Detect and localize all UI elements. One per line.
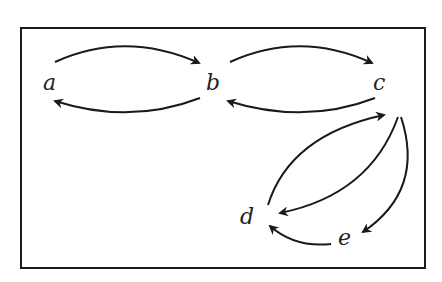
- graph-diagram: a b c d e: [0, 0, 442, 282]
- node-d: d: [240, 204, 254, 229]
- edge-a-to-b: [55, 46, 199, 63]
- graph-canvas: a b c d e: [0, 0, 442, 282]
- node-e: e: [338, 225, 351, 250]
- node-c: c: [373, 70, 385, 95]
- node-b: b: [206, 70, 220, 95]
- edge-c-to-b: [228, 98, 375, 112]
- edge-c-to-d: [280, 117, 398, 213]
- edge-d-to-c: [268, 115, 384, 205]
- edge-b-to-a: [55, 98, 200, 112]
- edge-b-to-c: [230, 46, 372, 63]
- edge-e-to-d: [270, 226, 331, 245]
- node-a: a: [43, 70, 56, 95]
- edge-c-to-e: [363, 117, 408, 232]
